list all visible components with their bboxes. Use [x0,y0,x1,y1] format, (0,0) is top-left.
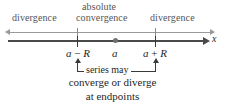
region-label-divergence-right: divergence [150,12,195,23]
region-label-divergence-left: divergence [12,12,57,23]
axis-arrow-right-icon [203,37,210,45]
guide-arrow-left-icon [5,29,10,35]
number-line-axis [8,40,204,42]
tick-right-endpoint [155,36,156,47]
caption-line-3: at endpoints [0,90,225,102]
bracket-arrow-up-left-icon [75,58,81,63]
region-label-convergence: convergence [76,12,127,23]
tick-left-endpoint [77,36,78,47]
tick-label-left-a: a [66,47,72,59]
center-point-marker [113,38,118,43]
region-label-absolute: absolute [82,1,116,12]
caption-line-2: converge or diverge [0,76,225,88]
axis-variable-label: x [212,33,216,44]
bracket-caption: series may [84,64,131,75]
tick-label-right-R: R [160,47,167,59]
bracket-stem-left [77,62,78,72]
power-series-convergence-diagram: divergence absolute convergence divergen… [0,0,225,111]
bracket-stem-right [155,62,156,72]
bracket-arrow-up-right-icon [153,58,159,63]
region-guide-line [8,32,214,33]
